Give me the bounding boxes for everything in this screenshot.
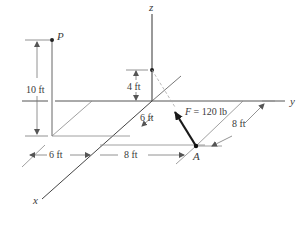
- dimension-4ft: 4 ft: [126, 68, 154, 100]
- dimension-6ft-near: 6 ft: [140, 112, 154, 126]
- z-axis: z: [148, 1, 154, 101]
- dimension-8ft-bottom-label: 8 ft: [124, 149, 138, 160]
- x-axis-label: x: [32, 194, 38, 206]
- x-axis: x: [32, 76, 181, 206]
- force-f: F = 120 lb: [175, 106, 227, 146]
- force-diagram: y z x P 10 ft 4 ft: [0, 0, 307, 225]
- dimension-10ft-label: 10 ft: [26, 84, 45, 95]
- dimension-4ft-label: 4 ft: [127, 81, 141, 92]
- point-a: [194, 144, 198, 148]
- post-p: P: [50, 30, 64, 136]
- dimension-bottom-row: 6 ft 8 ft: [22, 145, 184, 167]
- dimension-10ft: 10 ft: [25, 40, 50, 136]
- y-axis: y: [22, 95, 295, 107]
- force-arrow-icon: [175, 112, 196, 146]
- y-axis-label: y: [289, 95, 295, 107]
- svg-text:F = 120 lb: F = 120 lb: [184, 106, 227, 117]
- point-p: [50, 38, 54, 42]
- dimension-8ft-depth-label: 8 ft: [232, 118, 246, 129]
- force-symbol: F: [184, 106, 192, 117]
- point-p-label: P: [56, 30, 64, 42]
- force-magnitude: 120 lb: [202, 106, 227, 117]
- point-a-label: A: [192, 150, 200, 162]
- z-axis-label: z: [148, 1, 154, 13]
- dimension-6ft-near-label: 6 ft: [140, 112, 154, 123]
- dimension-6ft-bottom-label: 6 ft: [49, 149, 63, 160]
